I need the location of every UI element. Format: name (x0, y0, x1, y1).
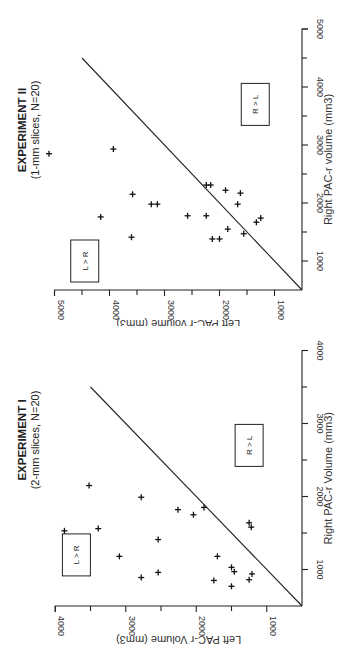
data-point (185, 213, 191, 219)
data-point (253, 219, 259, 225)
left-axis-title: Left PAC-r volume (mm3) (116, 318, 240, 326)
experiment-2-plot: 1000200030004000500010002000300040005000… (0, 0, 359, 326)
svg-text:R > L: R > L (251, 94, 260, 114)
data-point (201, 504, 207, 510)
right-axis-tick-label: 4000 (315, 340, 325, 360)
data-point (211, 577, 217, 583)
data-point (249, 571, 255, 577)
chart-title: EXPERIMENT II (16, 88, 28, 172)
svg-text:L > R: L > R (81, 251, 90, 270)
data-point (110, 146, 116, 152)
data-point (225, 226, 231, 232)
data-point (148, 201, 154, 207)
data-point (175, 507, 181, 513)
right-axis-tick-label: 1000 (315, 559, 325, 579)
data-point (154, 201, 160, 207)
left-axis-tick-label: 4000 (111, 300, 121, 320)
left-axis-tick-label: 1000 (276, 300, 286, 320)
data-point (61, 528, 67, 534)
left-axis-tick-label: 2000 (197, 616, 207, 636)
data-point (241, 231, 247, 237)
experiment-1-chart: 10002000300040001000200030004000Left PAC… (0, 326, 359, 654)
data-point (129, 234, 135, 240)
l-gt-r-label-box: L > R (71, 240, 99, 282)
svg-text:R > L: R > L (245, 435, 254, 455)
left-axis-tick-label: 3000 (166, 300, 176, 320)
data-point (223, 187, 229, 193)
data-point (235, 201, 241, 207)
experiment-1-plot: 10002000300040001000200030004000Left PAC… (0, 326, 359, 654)
data-point (214, 553, 220, 559)
data-point (217, 236, 223, 242)
data-point (86, 483, 92, 489)
data-point (246, 577, 252, 583)
data-point (229, 564, 235, 570)
data-point (190, 512, 196, 518)
right-axis-tick-label: 5000 (315, 19, 325, 39)
data-point (229, 583, 235, 589)
data-point (155, 569, 161, 575)
data-point (130, 191, 136, 197)
data-point (203, 213, 209, 219)
chart-subtitle: (1-mm slices, N=20) (29, 81, 41, 180)
left-axis-title: Left PAC-r Volume (mm3) (116, 634, 241, 646)
experiment-2-chart: 1000200030004000500010002000300040005000… (0, 0, 359, 326)
data-point (116, 553, 122, 559)
data-point (95, 526, 101, 532)
right-axis-tick-label: 1000 (315, 251, 325, 271)
chart-subtitle: (2-mm slices, N=20) (29, 391, 41, 490)
data-point (231, 569, 237, 575)
left-axis-tick-label: 1000 (268, 616, 278, 636)
right-axis-title: Right PAC-r volume (mm3) (322, 94, 334, 225)
data-point (237, 190, 243, 196)
chart-title: EXPERIMENT I (16, 399, 28, 480)
data-point (209, 236, 215, 242)
svg-text:L > R: L > R (72, 545, 81, 564)
data-point (98, 214, 104, 220)
l-gt-r-label-box: L > R (62, 534, 90, 576)
left-axis-tick-label: 3000 (127, 616, 137, 636)
data-point (258, 215, 264, 221)
data-point (46, 151, 52, 157)
left-axis-tick-label: 5000 (56, 300, 66, 320)
left-axis-tick-label: 4000 (56, 616, 66, 636)
data-point (208, 182, 214, 188)
right-axis-title: Right PAC-r Volume (mm3) (322, 412, 334, 544)
data-point (138, 575, 144, 581)
left-axis-tick-label: 2000 (221, 300, 231, 320)
data-point (138, 494, 144, 500)
r-gt-l-label-box: R > L (241, 83, 269, 125)
identity-line (91, 387, 303, 606)
data-point (155, 537, 161, 543)
r-gt-l-label-box: R > L (235, 424, 263, 466)
